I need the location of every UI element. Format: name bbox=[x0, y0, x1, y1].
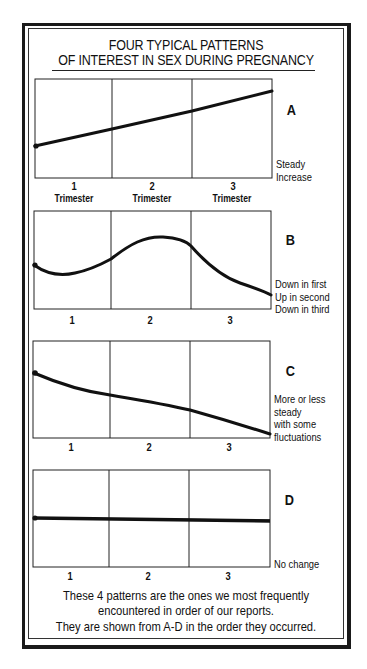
panel-c-line bbox=[34, 373, 270, 434]
panel-b-tick-1: 1 bbox=[47, 314, 98, 326]
panel-b-desc-line: Down in first bbox=[275, 278, 330, 291]
panel-a-letter: A bbox=[287, 101, 296, 118]
panel-c-tick-3: 3 bbox=[204, 441, 255, 453]
panel-a-desc-line: Steady bbox=[276, 158, 312, 171]
panel-d-desc-line: No change bbox=[274, 558, 319, 571]
panel-c-tick-2: 2 bbox=[124, 441, 175, 453]
panel-b-tick-3: 3 bbox=[205, 314, 256, 326]
panel-c-start-dot bbox=[32, 370, 38, 376]
panel-a-tick-sub-1: Trimester bbox=[45, 192, 102, 204]
panel-d-tick-2: 2 bbox=[123, 570, 174, 582]
panel-d-description: No change bbox=[274, 558, 319, 571]
panel-a-tick-3: 3 bbox=[208, 180, 259, 192]
panel-a-desc-line: Increase bbox=[276, 171, 312, 184]
panel-a-tick-sub-3: Trimester bbox=[203, 192, 260, 204]
footer-line-1: These 4 patterns are the ones we most fr… bbox=[50, 588, 322, 603]
panel-a-description: Steady Increase bbox=[276, 158, 312, 183]
panel-d-line bbox=[34, 518, 270, 521]
panel-c-description: More or less steady with some fluctuatio… bbox=[274, 393, 325, 443]
panel-c-desc-line: with some bbox=[274, 418, 325, 431]
panel-d-tick-3: 3 bbox=[203, 570, 254, 582]
panel-a-line bbox=[35, 91, 272, 146]
panel-b-desc-line: Down in third bbox=[275, 303, 330, 316]
panel-b-start-dot bbox=[32, 262, 37, 267]
footer-line-2: encountered in order of our reports. bbox=[50, 603, 322, 618]
panel-a-start-dot bbox=[33, 143, 38, 148]
panel-d-tick-1: 1 bbox=[45, 570, 96, 582]
panel-c-tick-1: 1 bbox=[46, 441, 97, 453]
panel-a-tick-sub-2: Trimester bbox=[123, 192, 180, 204]
panel-b-desc-line: Up in second bbox=[275, 291, 330, 304]
panel-a-tick-1: 1 bbox=[49, 180, 100, 192]
panel-b-plot bbox=[34, 211, 271, 309]
panel-b-letter: B bbox=[286, 231, 295, 248]
panel-c-desc-line: More or less bbox=[274, 393, 325, 406]
panel-b-description: Down in first Up in second Down in third bbox=[275, 278, 330, 316]
panel-d-start-dot bbox=[32, 515, 37, 520]
panel-a-plot bbox=[35, 79, 272, 178]
panel-c-desc-line: fluctuations bbox=[274, 431, 325, 444]
footer-line-3: They are shown from A-D in the order the… bbox=[50, 619, 322, 634]
panel-a-tick-2: 2 bbox=[127, 180, 178, 192]
panel-d-letter: D bbox=[285, 491, 294, 508]
panel-c-letter: C bbox=[286, 362, 295, 379]
panel-c-desc-line: steady bbox=[274, 406, 325, 419]
panel-b-line bbox=[34, 237, 271, 295]
panel-b-tick-2: 2 bbox=[125, 314, 176, 326]
